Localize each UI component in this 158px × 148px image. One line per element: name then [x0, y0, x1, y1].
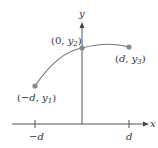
point-0-y2 — [79, 45, 84, 50]
coordinate-diagram: x y −d d (−d, y1) (0, y2) (d, y3) — [0, 0, 158, 148]
point-d-y3 — [126, 44, 131, 49]
y-axis-label: y — [78, 8, 85, 19]
x-axis-arrow-icon — [143, 122, 149, 127]
x-axis-label: x — [150, 118, 156, 129]
label-point-2: (0, y2) — [51, 35, 82, 48]
y-axis-arrow-icon — [80, 22, 85, 28]
tick-label-neg-d: −d — [29, 131, 44, 142]
label-point-1: (−d, y1) — [17, 92, 56, 105]
tick-label-d: d — [126, 131, 132, 142]
label-point-3: (d, y3) — [115, 53, 146, 66]
point-neg-d-y1 — [32, 83, 37, 88]
